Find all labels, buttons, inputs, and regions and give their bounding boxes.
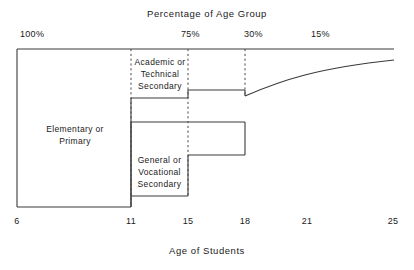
x-tick-label-11: 11: [117, 216, 145, 227]
x-axis-title: Age of Students: [0, 245, 414, 256]
x-tick-label-15: 15: [174, 216, 202, 227]
region-label-elementary-line1: Elementary or: [20, 124, 130, 134]
x-tick-label-21: 21: [293, 216, 321, 227]
percent-label-15: 15%: [311, 29, 330, 40]
region-label-elementary-line2: Primary: [20, 136, 130, 146]
region-label-general-line1: General or: [131, 155, 188, 165]
diagram-canvas: [0, 0, 414, 270]
chart-title: Percentage of Age Group: [0, 8, 414, 19]
region-label-academic-line2: Technical: [130, 69, 190, 79]
region-label-academic-line3: Secondary: [130, 81, 190, 91]
region-label-academic-line1: Academic or: [130, 57, 190, 67]
academic-lower-boundary-30: [188, 90, 245, 98]
x-tick-label-6: 6: [3, 216, 31, 227]
percent-label-30: 30%: [244, 29, 263, 40]
percent-label-75: 75%: [181, 29, 200, 40]
x-tick-label-18: 18: [231, 216, 259, 227]
region-label-general-line3: Secondary: [131, 179, 188, 189]
higher-education-curve: [245, 60, 394, 96]
region-label-general-line2: Vocational: [131, 167, 188, 177]
percent-label-100: 100%: [20, 29, 44, 40]
education-flow-diagram: Percentage of Age Group 100% 75% 30% 15%…: [0, 0, 414, 270]
x-tick-label-25: 25: [379, 216, 407, 227]
